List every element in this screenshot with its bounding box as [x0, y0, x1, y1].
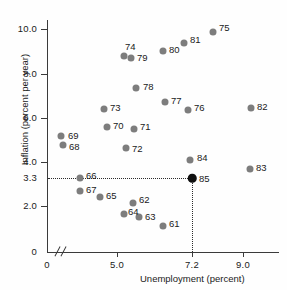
y-tick-8: [41, 74, 47, 75]
data-point-72: [123, 145, 130, 152]
data-point-67: [77, 188, 84, 195]
data-point-77: [162, 99, 169, 106]
data-point-label-77: 77: [171, 95, 182, 106]
data-point-78: [133, 85, 140, 92]
x-axis-title: Unemployment (percent): [140, 273, 245, 284]
x-tick-5: [117, 252, 118, 257]
x-tick-7-2: [192, 252, 193, 257]
data-point-73: [101, 106, 108, 113]
data-point-74: [121, 53, 128, 60]
x-tick-label-9: 9.0: [226, 259, 260, 270]
data-point-82: [248, 105, 255, 112]
x-tick-label-5: 5.0: [100, 259, 134, 270]
data-point-61: [160, 223, 167, 230]
y-tick-2: [41, 206, 47, 207]
y-tick-6: [41, 118, 47, 119]
data-point-65: [97, 194, 104, 201]
data-point-label-76: 76: [194, 102, 205, 113]
data-point-label-66: 66: [86, 170, 97, 181]
data-point-label-80: 80: [169, 44, 180, 55]
y-tick-label-0: 0: [3, 246, 37, 257]
data-point-label-74: 74: [125, 41, 136, 52]
data-point-label-84: 84: [197, 152, 208, 163]
x-tick-9: [243, 252, 244, 257]
data-point-68: [60, 142, 67, 149]
data-point-label-69: 69: [68, 130, 79, 141]
data-point-79: [128, 55, 135, 62]
data-point-label-73: 73: [110, 102, 121, 113]
data-point-69: [58, 133, 65, 140]
data-point-label-83: 83: [256, 162, 267, 173]
data-point-label-70: 70: [113, 120, 124, 131]
data-point-label-67: 67: [86, 184, 97, 195]
data-point-label-63: 63: [145, 211, 156, 222]
y-axis-title: Inflation (percent per year): [19, 30, 30, 190]
data-point-label-68: 68: [69, 141, 80, 152]
data-point-label-79: 79: [137, 52, 148, 63]
data-point-76: [185, 107, 192, 114]
data-point-label-64: 64: [128, 206, 139, 217]
data-point-label-85: 85: [199, 173, 210, 184]
x-tick-label-0: 0: [30, 259, 64, 270]
y-tick-10: [41, 29, 47, 30]
y-axis-line: [47, 20, 48, 252]
y-tick-label-2: 2.0: [3, 200, 37, 211]
data-point-83: [247, 166, 254, 173]
y-tick-4: [41, 162, 47, 163]
phillips-curve-scatter-chart: 10.0 8.0 6.0 4.0 3.3 2.0 0 0 5.0 7.2 9.0…: [0, 0, 287, 290]
data-point-71: [131, 126, 138, 133]
data-point-84: [187, 157, 194, 164]
data-point-80: [160, 48, 167, 55]
x-tick-label-7-2: 7.2: [175, 259, 209, 270]
data-point-label-78: 78: [143, 81, 154, 92]
data-point-label-72: 72: [132, 143, 143, 154]
data-point-81: [181, 40, 188, 47]
data-point-66: [77, 175, 84, 182]
data-point-70: [104, 124, 111, 131]
data-point-85-highlighted: [188, 174, 197, 183]
data-point-75: [210, 29, 217, 36]
data-point-64: [121, 211, 128, 218]
data-point-label-81: 81: [190, 34, 201, 45]
reference-line-horizontal: [48, 178, 192, 179]
data-point-label-62: 62: [139, 194, 150, 205]
x-axis-line: [47, 252, 279, 253]
reference-line-vertical: [192, 178, 193, 252]
data-point-label-75: 75: [219, 22, 230, 33]
data-point-label-82: 82: [257, 101, 268, 112]
data-point-label-61: 61: [169, 218, 180, 229]
data-point-label-71: 71: [140, 121, 151, 132]
data-point-label-65: 65: [106, 190, 117, 201]
